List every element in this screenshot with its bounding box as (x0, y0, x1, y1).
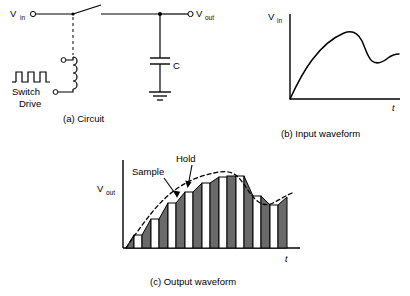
panel-a-circuit: V in S (10, 0, 214, 124)
bar-sample-9 (261, 196, 270, 248)
switch-drive-label-line2: Drive (19, 98, 41, 109)
terminal-vout-node-icon (188, 11, 193, 16)
figure-sample-and-hold: V in S (0, 0, 410, 296)
bar-sample-5 (193, 183, 202, 248)
vin-label-sub: in (20, 14, 25, 21)
panel-c-y-label-main: V (97, 183, 104, 194)
panel-c-bars (126, 176, 287, 248)
panel-c-y-label-sub: out (106, 189, 115, 196)
bar-hold-7 (236, 176, 244, 248)
vin-label-main: V (10, 8, 17, 19)
ground-icon (149, 92, 171, 100)
bar-hold-5 (202, 183, 210, 248)
annotation-sample-label: Sample (132, 166, 164, 177)
annotation-hold-label: Hold (176, 153, 196, 164)
bar-sample-6 (210, 177, 219, 248)
bar-hold-6 (219, 177, 227, 248)
panel-b-caption: (b) Input waveform (281, 128, 360, 139)
switch-label: S (78, 0, 84, 1)
coil-terminal-bottom-icon (53, 90, 58, 95)
vout-label-main: V (196, 8, 203, 19)
bar-hold-1 (134, 235, 142, 248)
panel-c-y-axis-label: V out (97, 183, 115, 196)
switch-blade-icon (73, 5, 101, 14)
panel-a-caption: (a) Circuit (63, 113, 105, 124)
switch-drive-label-line1: Switch (12, 86, 40, 97)
bar-sample-7 (227, 176, 236, 248)
bar-hold-3 (168, 203, 176, 248)
figure-svg: V in S (0, 0, 410, 296)
solenoid-coil-icon (58, 57, 77, 92)
bar-hold-8 (253, 196, 261, 248)
pulse-train-icon (12, 72, 50, 82)
bar-hold-4 (185, 192, 193, 248)
panel-b-input-waveform: V in t (b) Input waveform (268, 11, 400, 139)
bar-sample-3 (159, 203, 168, 248)
vout-label-sub: out (205, 14, 214, 21)
bar-hold-2 (151, 219, 159, 248)
panel-b-y-axis-label: V in (268, 11, 282, 24)
capacitor-label: C (173, 60, 180, 71)
panel-b-y-label-main: V (268, 11, 275, 22)
terminal-vin-node-icon (30, 11, 35, 16)
annotation-hold-arrow (185, 165, 192, 188)
bar-sample-4 (176, 192, 185, 248)
panel-b-x-label: t (392, 103, 395, 113)
panel-c-caption: (c) Output waveform (150, 276, 236, 287)
bar-sample-10 (278, 197, 287, 248)
terminal-vout-label: V out (196, 8, 214, 21)
bar-hold-9 (270, 205, 278, 248)
panel-b-input-curve (290, 32, 399, 99)
panel-c-output-waveform: V out t (97, 153, 300, 287)
capacitor-icon (150, 58, 170, 64)
coil-terminal-top-icon (61, 58, 66, 63)
panel-c-x-label: t (285, 254, 288, 264)
panel-b-y-label-sub: in (277, 17, 282, 24)
terminal-vin-label: V in (10, 8, 25, 21)
